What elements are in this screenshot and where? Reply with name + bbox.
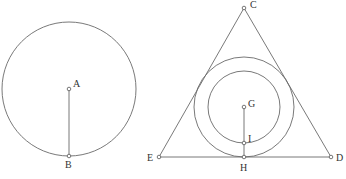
point-d [329, 155, 333, 159]
label-e: E [147, 152, 153, 163]
label-c: C [250, 0, 257, 10]
label-i: I [248, 133, 251, 144]
label-d: D [336, 152, 343, 163]
label-g: G [248, 98, 255, 109]
triangle-cde [159, 8, 331, 157]
left-figure: A B [2, 22, 136, 170]
point-c [242, 6, 246, 10]
geometry-diagram: A B C D E G I H [0, 0, 346, 179]
point-b [67, 154, 71, 158]
label-h: H [240, 162, 247, 173]
point-g [242, 105, 246, 109]
label-b: B [65, 159, 72, 170]
point-h [242, 155, 246, 159]
point-i [242, 141, 246, 145]
point-a [67, 87, 71, 91]
right-figure: C D E G I H [147, 0, 343, 173]
point-e [157, 155, 161, 159]
label-a: A [73, 78, 81, 89]
